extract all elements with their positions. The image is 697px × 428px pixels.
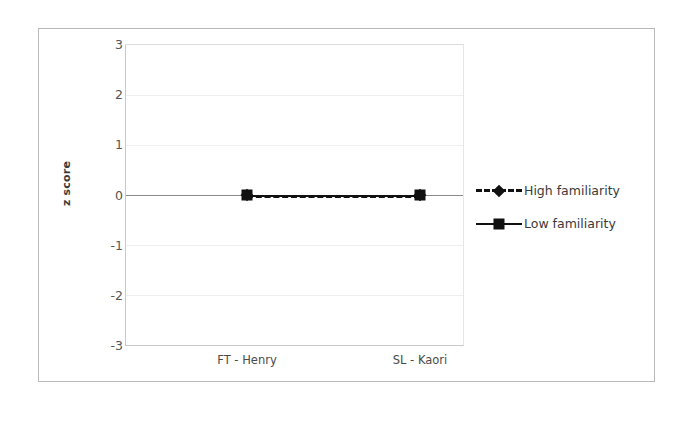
x-axis-tick-labels: FT - Henry SL - Kaori — [125, 353, 464, 373]
y-tick-label: -1 — [87, 238, 123, 253]
y-axis-title: z score — [60, 139, 73, 229]
gridline-neg2 — [126, 295, 463, 296]
x-tick-label-sl-kaori: SL - Kaori — [393, 353, 448, 367]
gridline-1 — [126, 145, 463, 146]
y-tick-label: -2 — [87, 288, 123, 303]
square-marker-icon — [494, 218, 505, 229]
legend-key-high-familiarity — [476, 183, 522, 199]
y-tick-label: -3 — [87, 338, 123, 353]
y-tick-label: 3 — [87, 37, 123, 52]
y-tick-label: 1 — [87, 137, 123, 152]
figure-frame: z score 3 2 1 0 -1 -2 -3 FT - Henry SL — [38, 28, 655, 382]
y-tick-label: 2 — [87, 87, 123, 102]
legend-item-low-familiarity: Low familiarity — [476, 207, 654, 240]
series-line-high-familiarity — [247, 195, 420, 198]
y-axis-tick-labels: 3 2 1 0 -1 -2 -3 — [87, 44, 123, 346]
chart-legend: High familiarity Low familiarity — [476, 174, 654, 240]
gridline-2 — [126, 95, 463, 96]
y-tick-label: 0 — [87, 188, 123, 203]
data-point-low-familiarity-ft-henry — [242, 190, 253, 201]
line-chart: z score 3 2 1 0 -1 -2 -3 FT - Henry SL — [39, 29, 656, 383]
plot-area — [125, 44, 464, 346]
legend-item-high-familiarity: High familiarity — [476, 174, 654, 207]
legend-label-high-familiarity: High familiarity — [522, 183, 620, 198]
gridline-neg1 — [126, 245, 463, 246]
legend-key-low-familiarity — [476, 216, 522, 232]
x-tick-label-ft-henry: FT - Henry — [217, 353, 276, 367]
diamond-marker-icon — [493, 184, 506, 197]
legend-label-low-familiarity: Low familiarity — [522, 216, 616, 231]
data-point-low-familiarity-sl-kaori — [415, 190, 426, 201]
